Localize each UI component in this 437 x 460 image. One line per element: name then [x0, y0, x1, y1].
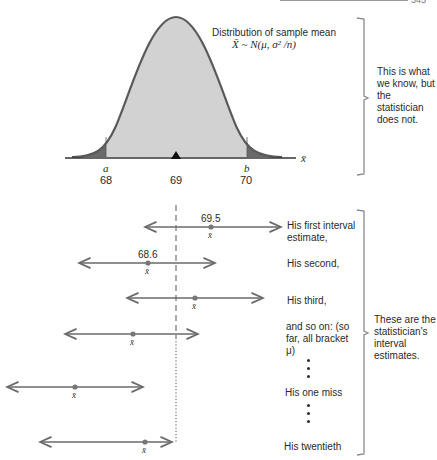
interval-1	[145, 224, 281, 229]
ellipsis-dots-1	[307, 359, 311, 383]
interval-2-label: His second,	[287, 258, 339, 270]
ellipsis-dots-2	[307, 404, 311, 428]
interval-1-label: His first interval estimate,	[287, 220, 362, 244]
marker-b-value: 70	[240, 174, 252, 186]
bottom-bracket	[357, 210, 368, 455]
interval-5-xbar: x̄	[72, 389, 76, 401]
marker-b-symbol: b	[244, 162, 250, 174]
interval-2-mean-value: 68.6	[138, 249, 157, 261]
interval-1-xbar: x̄	[208, 229, 212, 241]
marker-a-value: 68	[100, 174, 112, 186]
bottom-bracket-note: These are the statistician's interval es…	[374, 314, 436, 362]
interval-4-label: and so on: (so far, all bracket μ)	[286, 321, 352, 357]
interval-20-label: His twentieth	[284, 441, 341, 453]
distribution-formula: X̄ ~ N(μ, σ² /n)	[232, 38, 296, 50]
interval-3-xbar: x̄	[192, 300, 196, 312]
interval-20	[40, 439, 172, 444]
interval-20-xbar: x̄	[142, 444, 146, 456]
interval-3-label: His third,	[287, 295, 326, 307]
marker-a-symbol: a	[103, 162, 109, 174]
interval-2-xbar: x̄	[145, 265, 149, 277]
interval-1-mean-value: 69.5	[201, 213, 220, 225]
interval-4-xbar: x̄	[130, 336, 134, 348]
interval-miss-label: His one miss	[285, 387, 342, 399]
marker-mu-value: 69	[170, 174, 182, 186]
top-bracket	[357, 18, 368, 175]
diagram-canvas	[0, 0, 437, 460]
axis-label-xbar: x̄	[301, 152, 306, 164]
top-bracket-note: This is what we know, but the statistici…	[377, 66, 435, 126]
